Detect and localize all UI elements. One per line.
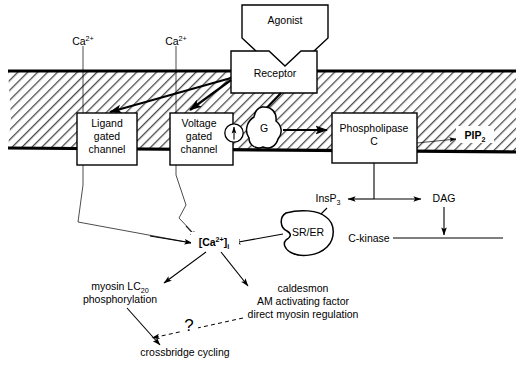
cytosolic-calcium-subscript: i bbox=[227, 242, 229, 251]
ligand-gated-channel-line1: Ligand bbox=[91, 117, 123, 129]
voltage-gated-channel-line2: gated bbox=[186, 130, 212, 142]
calcium-left-superscript: 2+ bbox=[86, 34, 94, 43]
plc-to-second-messengers bbox=[348, 163, 421, 199]
signaling-pathway-diagram: Ca2+ Ca2+ Agonist Receptor Ligand bbox=[0, 0, 516, 368]
insp3-node: InsP3 bbox=[315, 192, 340, 207]
pip2-subscript: 2 bbox=[481, 135, 485, 144]
voltage-gated-channel-node[interactable]: Voltage gated channel bbox=[170, 113, 243, 165]
calcium-arrow-ligand-to-cytosol bbox=[150, 236, 192, 243]
question-mark-node: ? bbox=[181, 313, 198, 336]
calcium-right-superscript: 2+ bbox=[179, 34, 187, 43]
sr-er-label: SR/ER bbox=[292, 226, 325, 238]
phospholipase-c-line2: C bbox=[370, 135, 378, 147]
calcium-downstream-arrows bbox=[164, 252, 248, 286]
sr-er-node[interactable]: SR/ER bbox=[281, 211, 333, 256]
depolarization-up-arrow-icon bbox=[225, 124, 243, 142]
insp3-subscript: 3 bbox=[337, 198, 341, 207]
g-protein-label: G bbox=[260, 122, 268, 134]
receptor-node[interactable]: Receptor bbox=[231, 51, 317, 93]
myosin-line2: phosphorylation bbox=[83, 293, 157, 305]
c-kinase-label: C-kinase bbox=[348, 232, 390, 244]
calcium-label-right: Ca2+ bbox=[165, 34, 187, 47]
question-mark-label: ? bbox=[184, 316, 193, 335]
caldesmon-node: caldesmon AM activating factor direct my… bbox=[248, 282, 359, 320]
ligand-gated-channel-line2: gated bbox=[94, 130, 120, 142]
voltage-gated-channel-line1: Voltage bbox=[181, 117, 216, 129]
phospholipase-c-node[interactable]: Phospholipase C bbox=[332, 113, 417, 163]
receptor-label: Receptor bbox=[254, 67, 297, 79]
crossbridge-cycling-label: crossbridge cycling bbox=[140, 346, 229, 358]
cytosolic-calcium-superscript: 2+ bbox=[216, 235, 224, 244]
ligand-gated-channel-line3: channel bbox=[89, 143, 126, 155]
calcium-left-base: Ca bbox=[72, 35, 86, 47]
diagram-canvas: Ca2+ Ca2+ Agonist Receptor Ligand bbox=[0, 0, 516, 368]
dag-label: DAG bbox=[433, 192, 456, 204]
caldesmon-line2: AM activating factor bbox=[257, 295, 350, 307]
pip2-node: PIP2 bbox=[456, 126, 494, 144]
calcium-right-base: Ca bbox=[165, 35, 179, 47]
svg-text:Ca2+: Ca2+ bbox=[165, 34, 187, 47]
arrow-myosin-to-crossbridge bbox=[127, 308, 160, 345]
calcium-label-left: Ca2+ bbox=[72, 34, 94, 47]
voltage-gated-channel-line3: channel bbox=[181, 143, 218, 155]
arrow-calcium-to-myosin bbox=[164, 252, 206, 283]
phospholipase-c-line1: Phospholipase bbox=[340, 122, 409, 134]
agonist-label: Agonist bbox=[267, 14, 302, 26]
myosin-line1-base: myosin LC bbox=[91, 280, 141, 292]
arrow-sr-er-to-calcium bbox=[233, 234, 283, 243]
cytosolic-calcium-prefix: [Ca bbox=[199, 236, 216, 248]
crossbridge-cycling-node: crossbridge cycling bbox=[140, 346, 229, 358]
ligand-gated-channel-node[interactable]: Ligand gated channel bbox=[77, 113, 137, 165]
dag-node: DAG bbox=[433, 192, 456, 204]
c-kinase-node: C-kinase bbox=[345, 229, 393, 245]
cytosolic-calcium-node: [Ca2+]i bbox=[191, 232, 239, 251]
svg-text:InsP3: InsP3 bbox=[315, 192, 340, 207]
arrow-calcium-to-caldesmon bbox=[221, 252, 248, 286]
pip2-base: PIP bbox=[465, 129, 482, 141]
insp3-base: InsP bbox=[315, 192, 336, 204]
myosin-phosphorylation-node: myosin LC20 phosphorylation bbox=[83, 280, 157, 305]
caldesmon-line1: caldesmon bbox=[278, 282, 329, 294]
svg-text:Ca2+: Ca2+ bbox=[72, 34, 94, 47]
caldesmon-line3: direct myosin regulation bbox=[248, 308, 359, 320]
